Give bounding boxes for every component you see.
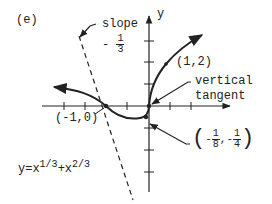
vertical-tangent-leader [152,82,191,104]
point-min [144,115,148,119]
point-neg1-0 [104,104,108,108]
curve-left-branch [54,87,106,106]
equation-label: y=x1/3+x2/3 [18,160,90,175]
slope-word: slope [102,18,138,30]
slope-sign: - [102,38,109,52]
point-label-neg1-0: (-1,0) [55,112,98,124]
point-label-1-2: (1,2) [176,56,212,68]
vertical-tangent-label-line1: vertical [195,75,253,87]
slope-value: - 13 [102,34,124,55]
point-1-2 [164,62,168,66]
point-origin [147,104,151,108]
y-axis-label: y [157,8,164,20]
slope-fraction: 13 [116,34,124,55]
min-point-label: (-18,-14) [192,128,254,150]
slope-leader [80,24,96,37]
panel-label: (e) [16,14,38,26]
vertical-tangent-label-line2: tangent [195,90,245,102]
min-point-leader [150,124,190,144]
